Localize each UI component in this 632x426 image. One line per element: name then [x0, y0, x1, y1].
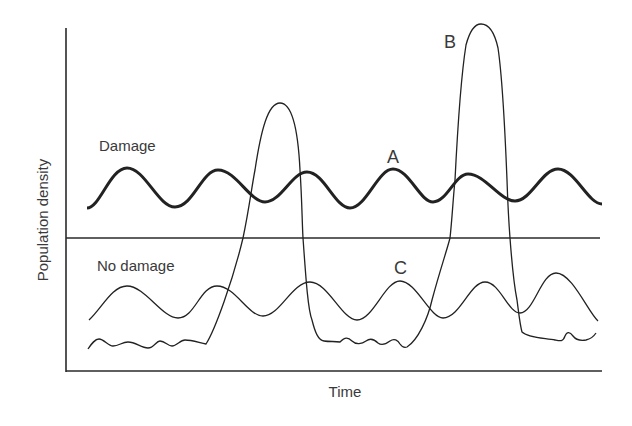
series-b-curve: [88, 24, 596, 349]
series-a-curve: [87, 168, 602, 208]
damage-region-label: Damage: [99, 137, 156, 154]
population-density-diagram: Population density Time Damage No damage…: [0, 0, 632, 426]
y-axis-label: Population density: [34, 158, 51, 281]
no-damage-region-label: No damage: [97, 257, 175, 274]
series-c-label: C: [394, 258, 407, 278]
series-c-curve: [89, 273, 598, 321]
x-axis-label: Time: [329, 383, 362, 400]
series-a-label: A: [387, 147, 399, 167]
series-b-label: B: [444, 32, 456, 52]
